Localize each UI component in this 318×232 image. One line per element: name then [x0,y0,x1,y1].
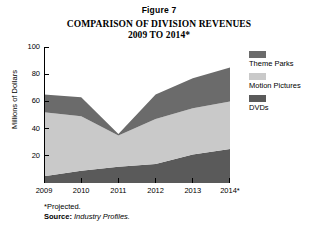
legend-label-dvds: DVDs [249,103,317,112]
footnote: *Projected. Source: Industry Profiles. [44,202,130,222]
legend-label-motion-pictures: Motion Pictures [249,81,317,90]
legend-swatch-dvds [249,95,266,102]
legend: Theme Parks Motion Pictures DVDs [249,51,317,117]
chart-title-line2: 2009 TO 2014* [0,30,318,41]
figure-container: Figure 7 COMPARISON OF DIVISION REVENUES… [0,0,318,232]
x-tick-label-2010: 2010 [61,186,101,195]
chart-title-line1: COMPARISON OF DIVISION REVENUES [67,19,251,29]
chart-title: COMPARISON OF DIVISION REVENUES 2009 TO … [0,19,318,41]
footnote-projected: *Projected. [44,202,130,212]
legend-item-dvds: DVDs [249,95,317,112]
y-tick-60: 60 [18,97,40,105]
footnote-source-label: Source: [44,212,72,221]
x-tick-label-2012: 2012 [136,186,176,195]
x-axis: 200920102011201220132014* [44,186,244,198]
legend-swatch-theme-parks [249,51,266,58]
stacked-area-chart [44,47,230,183]
y-tick-100: 100 [18,43,40,51]
legend-label-theme-parks: Theme Parks [249,59,317,68]
x-tick-label-2011: 2011 [98,186,138,195]
y-tick-80: 80 [18,70,40,78]
y-tick-20: 20 [18,152,40,160]
legend-item-theme-parks: Theme Parks [249,51,317,68]
footnote-source-value: Industry Profiles. [74,212,130,221]
x-tick-label-2009: 2009 [24,186,64,195]
plot-area [44,47,230,183]
legend-swatch-motion-pictures [249,73,266,80]
y-axis-title: Millions of Dollars [10,55,19,145]
y-tick-40: 40 [18,125,40,133]
footnote-source: Source: Industry Profiles. [44,212,130,222]
figure-label: Figure 7 [0,5,318,15]
x-tick-label-2013: 2013 [173,186,213,195]
area-series-group [44,67,230,183]
x-tick-label-2014: 2014* [210,186,250,195]
legend-item-motion-pictures: Motion Pictures [249,73,317,90]
